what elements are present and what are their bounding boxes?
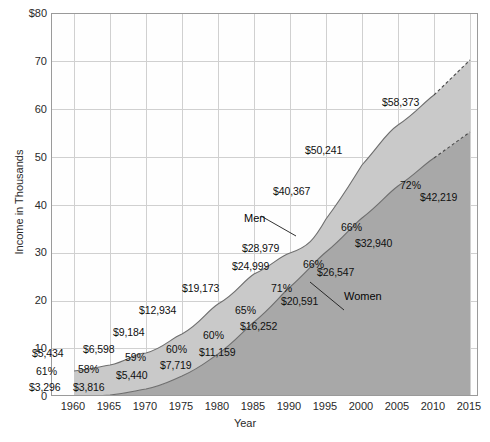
women-value-label: $11,159 [199, 347, 235, 358]
ratio-percent-label: 72% [400, 180, 421, 191]
women-value-label: $20,591 [281, 296, 318, 307]
women-value-label: $7,719 [160, 360, 192, 371]
series-label-women: Women [344, 290, 382, 302]
men-value-label: $58,373 [382, 97, 419, 108]
ratio-percent-label: 65% [235, 305, 256, 316]
y-tick: 50 [3, 152, 47, 163]
ratio-percent-label: 71% [271, 283, 292, 294]
men-value-label: $19,173 [182, 283, 219, 294]
men-value-label: $12,934 [139, 305, 176, 316]
y-tick: 70 [3, 56, 47, 67]
men-value-label: $5,434 [32, 348, 64, 359]
y-tick: 20 [3, 295, 47, 306]
ratio-percent-label: 60% [203, 330, 224, 341]
men-callout-leader [261, 216, 296, 236]
men-value-label: $6,598 [83, 344, 115, 355]
men-value-label: $24,999 [232, 261, 269, 272]
men-value-label: $9,184 [113, 327, 145, 338]
men-value-label: $28,979 [242, 243, 279, 254]
women-value-label: $42,219 [420, 192, 457, 203]
x-tick: 2015 [439, 400, 490, 412]
ratio-percent-label: 66% [341, 222, 362, 233]
ratio-percent-label: 58% [78, 364, 99, 375]
women-value-label: $5,440 [116, 370, 148, 381]
ratio-percent-label: 59% [125, 352, 146, 363]
men-value-label: $40,367 [273, 186, 310, 197]
y-tick: 30 [3, 247, 47, 258]
ratio-percent-label: 60% [166, 344, 187, 355]
series-areas [52, 14, 478, 396]
income-gap-area-chart: Income in Thousands $80 70 60 50 40 30 2… [0, 0, 490, 442]
x-axis-title: Year [0, 417, 490, 429]
ratio-percent-label: 61% [36, 366, 57, 377]
women-value-label: $32,940 [355, 238, 392, 249]
series-label-men: Men [244, 212, 265, 224]
y-tick: 40 [3, 200, 47, 211]
women-value-label: $3,296 [29, 382, 61, 393]
ratio-percent-label: 66% [303, 259, 324, 270]
women-value-label: $3,816 [73, 382, 105, 393]
plot-area [51, 13, 478, 396]
y-tick: $80 [3, 8, 47, 19]
women-value-label: $16,252 [240, 321, 277, 332]
men-value-label: $50,241 [305, 145, 342, 156]
y-tick: 60 [3, 104, 47, 115]
